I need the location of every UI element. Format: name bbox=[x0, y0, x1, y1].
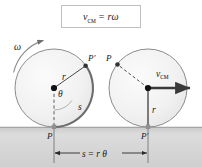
right-center-dot bbox=[145, 85, 151, 91]
right-point-p-marker bbox=[115, 62, 120, 67]
rolling-motion-figure: ω r θ s P′ P P vCM r P′ bbox=[0, 0, 202, 167]
right-radius-label: r bbox=[152, 105, 156, 115]
left-ground-point-label: P bbox=[46, 131, 53, 141]
left-point-p-prime-marker bbox=[83, 64, 88, 69]
dimension-label-s: s bbox=[82, 149, 86, 159]
theta-label: θ bbox=[58, 89, 63, 99]
formula-v-subscript: CM bbox=[87, 18, 96, 24]
dimension-label-equals: = bbox=[88, 149, 93, 159]
left-center-dot bbox=[51, 85, 57, 91]
left-wheel-group bbox=[14, 40, 93, 129]
right-point-p-label: P bbox=[105, 53, 112, 63]
left-radius-label: r bbox=[62, 72, 66, 82]
figure-canvas: ω r θ s P′ P P vCM r P′ bbox=[0, 0, 202, 167]
left-point-p-prime-label: P′ bbox=[87, 53, 96, 63]
formula-equals: = bbox=[99, 11, 105, 22]
dimension-label-rtheta: r θ bbox=[96, 149, 107, 159]
arc-length-label: s bbox=[78, 102, 82, 112]
left-contact-marker bbox=[52, 125, 56, 129]
right-contact-marker bbox=[146, 125, 150, 129]
omega-label: ω bbox=[14, 41, 21, 52]
velocity-subscript: CM bbox=[160, 74, 169, 80]
right-wheel-group bbox=[109, 49, 190, 129]
ground-surface bbox=[0, 127, 202, 167]
formula-rhs: rω bbox=[107, 11, 118, 22]
